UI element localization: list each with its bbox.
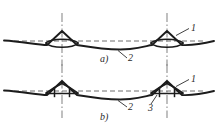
- wave-profile-b: [4, 81, 214, 100]
- callout-label-2-panel-a: 2: [128, 53, 133, 63]
- panel-caption-b: b): [100, 112, 108, 122]
- technical-figure: 1 2 a) 1 2 3 b): [0, 0, 218, 133]
- panel-a-group: [4, 13, 214, 66]
- panel-caption-a: a): [100, 54, 108, 64]
- callout-label-1-panel-a: 1: [191, 23, 196, 33]
- leader-a-1: [176, 29, 189, 36]
- leader-b-1: [176, 80, 189, 87]
- panel-b-group: [4, 64, 214, 118]
- callout-label-1-panel-b: 1: [191, 74, 196, 84]
- leader-a-2: [118, 51, 127, 59]
- leader-b-2: [118, 101, 127, 108]
- figure-canvas: [0, 0, 218, 133]
- callout-label-3-panel-b: 3: [148, 103, 153, 113]
- callout-label-2-panel-b: 2: [128, 102, 133, 112]
- wave-profile-a: [4, 31, 214, 50]
